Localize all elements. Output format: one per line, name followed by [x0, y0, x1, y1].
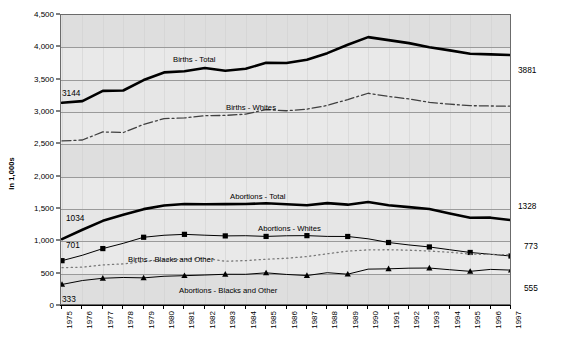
- y-axis-tickmark: [56, 240, 60, 241]
- series-label-births-total: Births - Total: [173, 55, 216, 64]
- x-axis-tickmark: [102, 305, 103, 309]
- x-axis-tickmark: [183, 305, 184, 309]
- x-axis-tick-1978: 1978: [126, 311, 135, 329]
- y-axis-tickmark: [56, 208, 60, 209]
- x-axis-tickmark: [490, 305, 491, 309]
- y-axis-tickmark: [56, 143, 60, 144]
- x-axis-tickmark: [326, 305, 327, 309]
- x-axis-tickmark: [408, 305, 409, 309]
- y-axis-tickmark: [56, 14, 60, 15]
- series-label-abortions-blacks-and-other: Abortions - Blacks and Other: [179, 286, 277, 295]
- y-axis-tickmark: [56, 305, 60, 306]
- y-axis-tick-labels: 05001,0001,5002,0002,5003,0003,5004,0004…: [18, 0, 58, 347]
- x-axis-tickmark: [143, 305, 144, 309]
- series-marker-square: [345, 234, 350, 239]
- y-axis-tick-3000: 3,000: [34, 107, 54, 116]
- x-axis-tickmark: [469, 305, 470, 309]
- x-axis-tick-1990: 1990: [371, 311, 380, 329]
- x-axis-tick-1994: 1994: [453, 311, 462, 329]
- value-label-right-555: 555: [524, 283, 538, 293]
- series-marker-square: [223, 233, 228, 238]
- series-marker-triangle: [263, 270, 269, 276]
- x-axis-tickmark: [428, 305, 429, 309]
- value-label-right-773: 773: [524, 241, 538, 251]
- x-axis-tick-1991: 1991: [392, 311, 401, 329]
- series-marker-square: [386, 240, 391, 245]
- series-label-births-blacks-and-other: Births - Blacks and Other: [128, 255, 213, 264]
- series-label-abortions-whites: Abortions - Whites: [258, 224, 321, 233]
- y-axis-tickmark: [56, 111, 60, 112]
- value-label-left-333: 333: [62, 294, 76, 304]
- y-axis-tickmark: [56, 78, 60, 79]
- x-axis-tick-1986: 1986: [290, 311, 299, 329]
- x-axis-tickmark: [81, 305, 82, 309]
- series-marker-square: [427, 244, 432, 249]
- x-axis-tick-1995: 1995: [473, 311, 482, 329]
- x-axis-tick-1993: 1993: [432, 311, 441, 329]
- series-line-births-total: [62, 37, 511, 103]
- x-axis-tick-1988: 1988: [330, 311, 339, 329]
- x-axis-tick-1979: 1979: [147, 311, 156, 329]
- x-axis-tickmark: [449, 305, 450, 309]
- x-axis-tickmark: [245, 305, 246, 309]
- x-axis-tickmark: [204, 305, 205, 309]
- y-axis-tick-2000: 2,000: [34, 171, 54, 180]
- value-label-left-1034: 1034: [66, 213, 84, 223]
- x-axis-tickmark: [347, 305, 348, 309]
- x-axis-tick-1981: 1981: [187, 311, 196, 329]
- series-marker-square: [141, 235, 146, 240]
- x-axis-tick-1992: 1992: [412, 311, 421, 329]
- y-axis-tick-4500: 4,500: [34, 10, 54, 19]
- series-line-births-whites: [62, 93, 511, 141]
- y-axis-title: In 1,000s: [4, 118, 18, 228]
- x-axis-tickmark: [265, 305, 266, 309]
- y-axis-tickmark: [56, 175, 60, 176]
- x-axis-tick-1984: 1984: [249, 311, 258, 329]
- x-axis-tick-1977: 1977: [106, 311, 115, 329]
- y-axis-tick-2500: 2,500: [34, 139, 54, 148]
- y-axis-tick-1000: 1,000: [34, 236, 54, 245]
- x-axis-tickmark: [510, 305, 511, 309]
- series-marker-square: [60, 258, 65, 263]
- x-axis-tickmark: [122, 305, 123, 309]
- y-axis-tick-4000: 4,000: [34, 42, 54, 51]
- series-marker-square: [182, 232, 187, 237]
- x-axis-tickmark: [286, 305, 287, 309]
- x-axis-tick-1975: 1975: [65, 311, 74, 329]
- x-axis-tick-1996: 1996: [494, 311, 503, 329]
- x-axis-tickmark: [388, 305, 389, 309]
- x-axis-tick-1985: 1985: [269, 311, 278, 329]
- x-axis-tick-1982: 1982: [208, 311, 217, 329]
- y-axis-tickmark: [56, 272, 60, 273]
- x-axis-tickmark: [61, 305, 62, 309]
- series-label-abortions-total: Abortions - Total: [230, 192, 285, 201]
- y-axis-tickmark: [56, 46, 60, 47]
- x-axis-tickmark: [163, 305, 164, 309]
- value-label-left-701: 701: [66, 240, 80, 250]
- y-axis-tick-0: 0: [50, 301, 54, 310]
- series-marker-square: [304, 233, 309, 238]
- y-axis-tick-3500: 3,500: [34, 74, 54, 83]
- series-marker-square: [263, 234, 268, 239]
- series-label-births-whites: Births - Whites: [226, 103, 276, 112]
- x-axis-tick-1976: 1976: [85, 311, 94, 329]
- y-axis-tick-500: 500: [41, 268, 54, 277]
- x-axis-tick-1989: 1989: [351, 311, 360, 329]
- x-axis-tick-1980: 1980: [167, 311, 176, 329]
- series-line-abortions-total: [62, 202, 511, 239]
- series-marker-square: [508, 253, 511, 258]
- y-axis-title-text: In 1,000s: [7, 157, 16, 190]
- value-label-left-3144: 3144: [62, 88, 80, 98]
- plot-area: Births - TotalBirths - WhitesAbortions -…: [60, 14, 511, 305]
- x-axis-tickmark: [367, 305, 368, 309]
- series-line-abortions-blacks-and-other: [62, 268, 511, 284]
- chart-container: In 1,000s 05001,0001,5002,0002,5003,0003…: [0, 0, 567, 347]
- x-axis-tick-1987: 1987: [310, 311, 319, 329]
- value-label-right-1328: 1328: [518, 201, 536, 211]
- x-axis-tickmark: [224, 305, 225, 309]
- x-axis-tickmark: [306, 305, 307, 309]
- x-axis-tick-1997: 1997: [514, 311, 523, 329]
- x-axis-tick-1983: 1983: [228, 311, 237, 329]
- value-label-right-3881: 3881: [518, 65, 536, 75]
- series-marker-square: [100, 246, 105, 251]
